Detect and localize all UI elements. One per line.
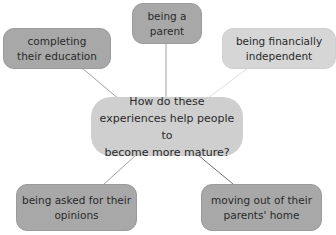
center-question-node: How do these experiences help people to … — [91, 97, 243, 156]
node-being-a-parent: being a parent — [132, 3, 202, 44]
node-moving-out: moving out of their parents' home — [201, 184, 322, 231]
node-asked-for-opinions: being asked for their opinions — [16, 184, 137, 231]
node-text-line2: opinions — [54, 208, 98, 223]
node-text-line1: being a — [147, 9, 186, 24]
node-financially-independent: being financially independent — [222, 28, 336, 69]
connector-financial — [208, 68, 248, 98]
node-text-line1: moving out of their — [211, 193, 312, 208]
node-text-line1: completing — [28, 34, 87, 49]
center-text-line2: experiences help people to — [95, 110, 239, 144]
connector-education — [82, 68, 120, 100]
node-text-line1: being asked for their — [22, 193, 131, 208]
node-text-line2: parent — [150, 24, 184, 39]
node-completing-education: completing their education — [3, 28, 111, 69]
node-text-line1: being financially — [236, 34, 322, 49]
node-text-line2: their education — [17, 49, 97, 64]
center-text-line3: become more mature? — [104, 144, 229, 161]
node-text-line2: parents' home — [224, 208, 300, 223]
center-text-line1: How do these — [129, 93, 204, 110]
node-text-line2: independent — [246, 49, 312, 64]
